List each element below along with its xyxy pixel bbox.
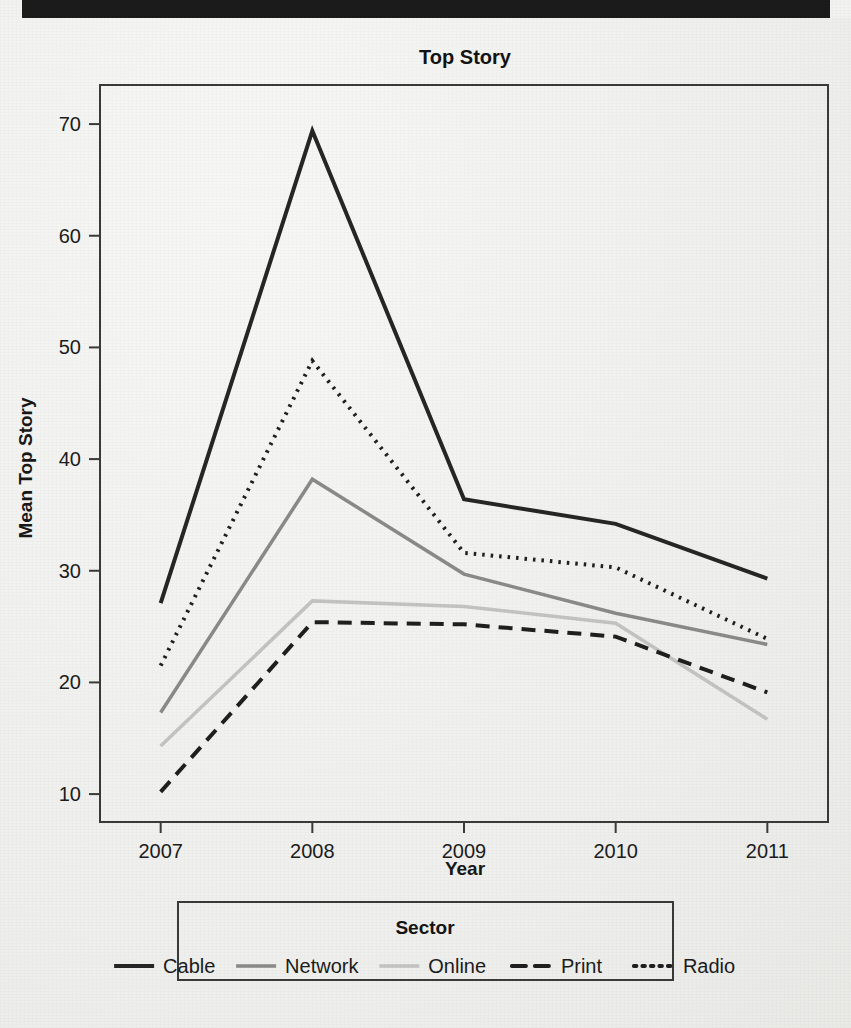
series-line-network bbox=[161, 479, 768, 712]
x-tick-label: 2007 bbox=[138, 840, 183, 862]
legend-label-online: Online bbox=[428, 955, 486, 977]
y-tick-label: 20 bbox=[59, 671, 81, 693]
y-tick-label: 30 bbox=[59, 560, 81, 582]
y-tick-label: 60 bbox=[59, 225, 81, 247]
y-axis-title: Mean Top Story bbox=[15, 397, 36, 539]
line-chart: Top Story Mean Top Story Year 1020304050… bbox=[0, 18, 851, 1028]
chart-figure: Top Story Mean Top Story Year 1020304050… bbox=[0, 18, 851, 1028]
chart-title: Top Story bbox=[419, 46, 512, 68]
series-lines bbox=[161, 131, 768, 792]
y-tick-label: 10 bbox=[59, 783, 81, 805]
x-axis-ticks: 20072008200920102011 bbox=[138, 822, 788, 862]
legend-title: Sector bbox=[395, 917, 455, 938]
y-axis-ticks: 10203040506070 bbox=[59, 113, 100, 805]
x-tick-label: 2010 bbox=[593, 840, 638, 862]
legend-label-radio: Radio bbox=[683, 955, 735, 977]
legend-items: CableNetworkOnlinePrintRadio bbox=[114, 955, 735, 977]
page-root: Top Story Mean Top Story Year 1020304050… bbox=[0, 0, 851, 1028]
y-tick-label: 40 bbox=[59, 448, 81, 470]
legend-label-network: Network bbox=[285, 955, 359, 977]
x-tick-label: 2011 bbox=[746, 840, 789, 862]
x-tick-label: 2008 bbox=[290, 840, 335, 862]
y-tick-label: 50 bbox=[59, 336, 81, 358]
x-tick-label: 2009 bbox=[442, 840, 487, 862]
y-tick-label: 70 bbox=[59, 113, 81, 135]
legend-label-print: Print bbox=[561, 955, 603, 977]
scan-header-bar bbox=[22, 0, 830, 18]
legend-label-cable: Cable bbox=[163, 955, 215, 977]
series-line-radio bbox=[161, 361, 768, 666]
series-line-print bbox=[161, 622, 768, 792]
series-line-cable bbox=[161, 131, 768, 603]
